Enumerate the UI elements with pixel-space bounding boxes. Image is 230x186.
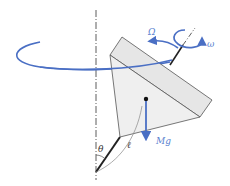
label-length: ℓ bbox=[127, 140, 131, 150]
label-precession: Ω bbox=[147, 27, 156, 37]
label-weight: Mg bbox=[155, 136, 171, 146]
label-spin: ω bbox=[207, 39, 215, 49]
diagram-canvas: Ω ω Mg θ ℓ bbox=[0, 0, 230, 186]
spin-loop bbox=[174, 30, 202, 48]
precession-arrow bbox=[152, 41, 178, 48]
pivot-rod bbox=[96, 137, 120, 172]
center-of-mass bbox=[144, 97, 148, 101]
spin-axis-rod bbox=[170, 45, 183, 65]
label-angle: θ bbox=[98, 144, 104, 154]
diagram-svg: Ω ω Mg θ ℓ bbox=[0, 0, 230, 186]
